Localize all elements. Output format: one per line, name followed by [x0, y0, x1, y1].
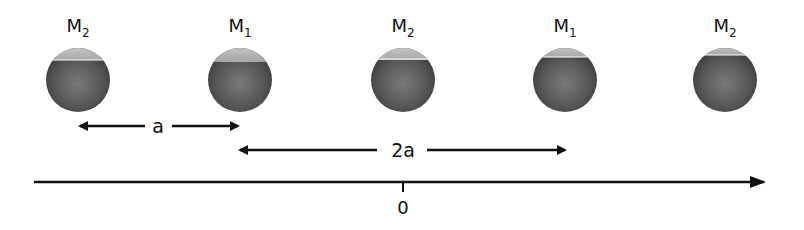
mass-sphere-3 [363, 40, 443, 112]
mass-sphere-2 [200, 40, 280, 112]
mass-label-3: M2 [391, 15, 414, 40]
spacing-2a-label: 2a [391, 139, 415, 161]
chain-diagram: M2 M1 M2 M1 M2 a 2a 0 [0, 0, 804, 230]
mass-sphere-4 [525, 40, 605, 112]
mass-label-2: M1 [228, 15, 251, 40]
mass-label-5: M2 [713, 15, 736, 40]
mass-label-1: M2 [66, 15, 89, 40]
mass-sphere-1 [40, 40, 120, 112]
mass-sphere-5 [685, 40, 765, 112]
spacing-a-label: a [152, 115, 164, 137]
origin-label: 0 [397, 197, 408, 218]
mass-label-4: M1 [553, 15, 576, 40]
